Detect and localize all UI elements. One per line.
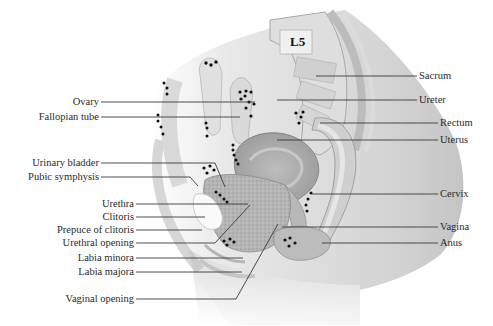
label-vagina: Vagina xyxy=(440,221,469,233)
label-cervix: Cervix xyxy=(440,188,469,200)
anatomy-diagram: L5 Ovary Fallopian tube Urinary bladder … xyxy=(0,0,493,326)
label-fallopian-tube: Fallopian tube xyxy=(39,111,99,123)
label-vaginal-opening: Vaginal opening xyxy=(65,293,134,305)
label-clitoris: Clitoris xyxy=(102,211,134,223)
label-ovary: Ovary xyxy=(73,96,99,108)
vertebra-l5-label: L5 xyxy=(290,34,305,50)
label-prepuce-of-clitoris: Prepuce of clitoris xyxy=(57,224,134,236)
label-labia-minora: Labia minora xyxy=(78,252,134,264)
label-urethra: Urethra xyxy=(102,198,134,210)
label-anus: Anus xyxy=(440,237,462,249)
label-pubic-symphysis: Pubic symphysis xyxy=(28,171,99,183)
label-ureter: Ureter xyxy=(419,94,446,106)
label-sacrum: Sacrum xyxy=(419,70,451,82)
label-labia-majora: Labia majora xyxy=(78,266,134,278)
label-rectum: Rectum xyxy=(440,117,473,129)
label-uterus: Uterus xyxy=(440,134,468,146)
label-urinary-bladder: Urinary bladder xyxy=(32,157,99,169)
anus-shape xyxy=(274,226,331,260)
label-urethral-opening: Urethral opening xyxy=(63,237,134,249)
